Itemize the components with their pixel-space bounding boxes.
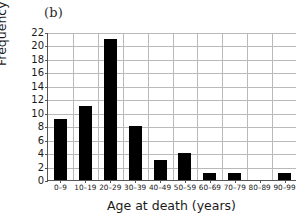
plot-area: 0246810121416182022 0–910–1920–2930–3940… [47, 33, 296, 181]
y-tick-label: 14 [18, 82, 48, 92]
gridline-vertical [173, 33, 174, 180]
y-tick-label: 10 [18, 109, 48, 119]
y-tick-label: 20 [18, 41, 48, 51]
gridline-vertical [98, 33, 99, 180]
y-tick-mark [45, 73, 48, 74]
x-tick-label: 50–59 [174, 184, 196, 191]
x-tick-label: 70–79 [224, 184, 246, 191]
x-tick-label: 10–19 [74, 184, 96, 191]
y-tick-label: 4 [18, 149, 48, 159]
y-tick-label: 22 [18, 28, 48, 38]
y-tick-mark [45, 46, 48, 47]
bar [129, 126, 142, 180]
gridline-vertical [272, 33, 273, 180]
y-tick-mark [45, 127, 48, 128]
x-tick-label: 40–49 [149, 184, 171, 191]
bar [154, 160, 167, 180]
y-tick-mark [45, 168, 48, 169]
y-tick-label: 2 [18, 163, 48, 173]
y-tick-label: 16 [18, 68, 48, 78]
panel-label: (b) [44, 5, 63, 20]
x-tick-label: 60–69 [199, 184, 221, 191]
y-tick-mark [45, 154, 48, 155]
x-tick-label: 90–99 [273, 184, 295, 191]
bar [203, 173, 216, 180]
y-tick-mark [45, 181, 48, 182]
y-tick-label: 12 [18, 95, 48, 105]
y-tick-label: 8 [18, 122, 48, 132]
gridline-vertical [222, 33, 223, 180]
x-axis-title: Age at death (years) [47, 198, 296, 213]
gridline-vertical [123, 33, 124, 180]
bar [228, 173, 241, 180]
y-tick-mark [45, 141, 48, 142]
bar [278, 173, 291, 180]
y-tick-mark [45, 33, 48, 34]
y-tick-label: 18 [18, 55, 48, 65]
figure-panel-b: (b) Frequency 0246810121416182022 0–910–… [0, 0, 308, 221]
gridline-vertical [247, 33, 248, 180]
gridline-vertical [197, 33, 198, 180]
bar [79, 106, 92, 180]
y-tick-mark [45, 60, 48, 61]
bar [54, 119, 67, 180]
y-tick-mark [45, 87, 48, 88]
y-axis-title: Frequency [0, 1, 9, 66]
y-tick-label: 6 [18, 136, 48, 146]
y-tick-mark [45, 100, 48, 101]
y-tick-mark [45, 114, 48, 115]
bar [104, 39, 117, 180]
x-tick-label: 0–9 [54, 184, 67, 191]
bar [178, 153, 191, 180]
x-tick-label: 80–89 [249, 184, 271, 191]
gridline-vertical [148, 33, 149, 180]
gridline-vertical [73, 33, 74, 180]
y-tick-label: 0 [18, 176, 48, 186]
x-tick-label: 30–39 [124, 184, 146, 191]
x-tick-label: 20–29 [99, 184, 121, 191]
